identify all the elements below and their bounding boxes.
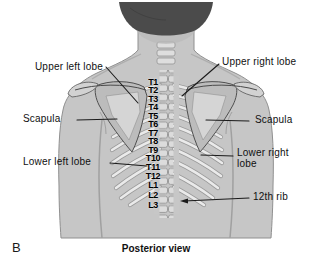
label-lower-right-lobe: Lower right lobe	[237, 147, 295, 169]
label-upper-left-lobe: Upper left lobe	[19, 61, 103, 72]
vertebra-label-l2: L2	[139, 191, 167, 200]
label-lower-left-lobe: Lower left lobe	[23, 156, 91, 167]
vertebra-label-l3: L3	[139, 201, 167, 210]
figure-caption: Posterior view	[0, 243, 312, 254]
vertebra-label-l1: L1	[139, 181, 167, 190]
label-scapula-left: Scapula	[23, 113, 61, 124]
figure-posterior-view: Upper left lobe Upper right lobe Scapula…	[0, 0, 312, 257]
label-12th-rib: 12th rib	[253, 191, 288, 202]
vertebrae-labels: T1 T2 T3 T4 T5 T6 T7 T8 T9 T10 T11 T12 L…	[139, 0, 167, 257]
label-scapula-right: Scapula	[255, 114, 293, 125]
label-upper-right-lobe: Upper right lobe	[222, 56, 296, 67]
